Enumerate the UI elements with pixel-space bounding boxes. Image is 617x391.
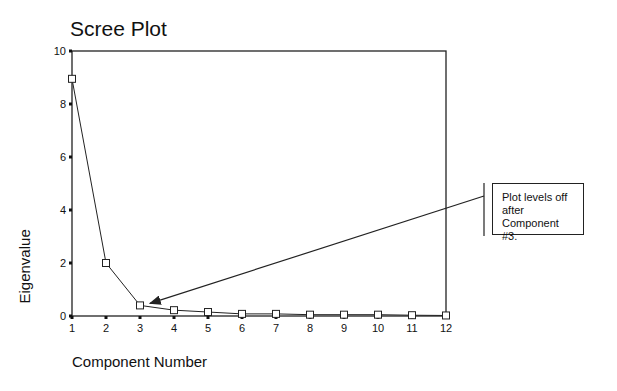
data-point-marker <box>239 310 246 317</box>
x-tick-label: 8 <box>307 322 313 334</box>
data-point-marker <box>137 302 144 309</box>
data-point-marker <box>307 311 314 318</box>
y-tick-label: 4 <box>60 204 66 216</box>
y-tick-label: 10 <box>54 45 66 57</box>
x-tick-label: 5 <box>205 322 211 334</box>
x-tick-label: 4 <box>171 322 177 334</box>
x-tick-label: 9 <box>341 322 347 334</box>
x-tick-mark <box>173 316 176 319</box>
x-tick-mark <box>139 316 142 319</box>
x-tick-label: 6 <box>239 322 245 334</box>
data-point-marker <box>409 312 416 319</box>
x-tick-mark <box>105 316 108 319</box>
y-tick-mark <box>69 156 72 159</box>
y-tick-label: 0 <box>60 310 66 322</box>
y-tick-mark <box>69 103 72 106</box>
callout-line: Plot levels off <box>502 191 583 204</box>
data-point-marker <box>375 311 382 318</box>
data-point-marker <box>205 309 212 316</box>
callout-line: #3. <box>502 230 583 243</box>
data-point-marker <box>341 311 348 318</box>
x-tick-label: 1 <box>69 322 75 334</box>
data-point-marker <box>171 307 178 314</box>
data-point-marker <box>69 75 76 82</box>
y-tick-mark <box>69 50 72 53</box>
x-tick-label: 10 <box>372 322 384 334</box>
data-point-marker <box>443 312 450 319</box>
data-point-marker <box>103 260 110 267</box>
y-tick-label: 6 <box>60 151 66 163</box>
annotation-arrow <box>150 196 484 303</box>
data-point-marker <box>273 310 280 317</box>
y-tick-label: 2 <box>60 257 66 269</box>
x-tick-label: 7 <box>273 322 279 334</box>
x-tick-mark <box>207 316 210 319</box>
x-tick-label: 11 <box>406 322 417 334</box>
eigenvalue-line <box>72 79 446 316</box>
callout-line: after Component <box>502 204 583 230</box>
y-tick-mark <box>69 262 72 265</box>
annotation-callout: Plot levels off after Component #3. <box>492 183 584 235</box>
x-tick-mark <box>71 316 74 319</box>
x-tick-label: 3 <box>137 322 143 334</box>
x-tick-label: 2 <box>103 322 109 334</box>
y-tick-label: 8 <box>60 98 66 110</box>
x-tick-label: 12 <box>440 322 452 334</box>
y-tick-mark <box>69 209 72 212</box>
plot-frame <box>72 51 446 316</box>
